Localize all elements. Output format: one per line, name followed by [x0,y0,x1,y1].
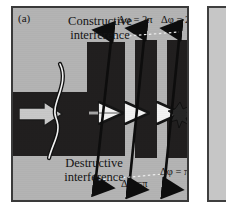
phase-label-bottom-1: Δφ =π [121,178,148,189]
figure-root: (a) Constructive interference Destructiv… [0,0,229,217]
phase-label-top-2: Δφ = 2π [161,14,189,25]
phase-label-bottom-2: Δφ = π [160,166,189,177]
adjacent-figure-strip [207,6,226,202]
destructive-line-1: Destructive [51,156,137,170]
panel-label: (a) [18,12,30,24]
s-wave-curve-icon [49,64,63,158]
constructive-line-2: interference [57,28,143,42]
phase-label-top-1: Δφ = 2π [118,14,153,25]
figure-panel-a: (a) Constructive interference Destructiv… [11,6,189,202]
